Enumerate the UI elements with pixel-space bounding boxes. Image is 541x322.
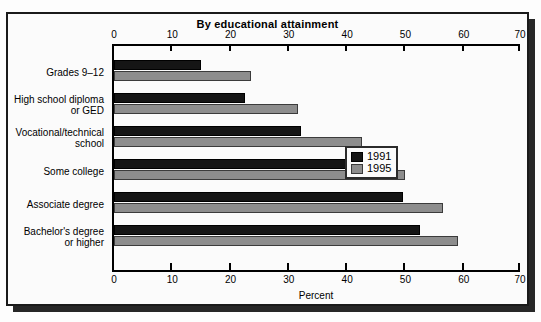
bar-1991-0 <box>114 60 201 70</box>
plot-area: 010203040506070 010203040506070 Grades 9… <box>112 44 520 272</box>
figure-shadow-right <box>529 19 535 312</box>
category-label-line: school <box>0 138 104 149</box>
x-tick-top <box>462 44 464 51</box>
bar-1991-4 <box>114 192 403 202</box>
x-tick-bottom <box>345 263 347 270</box>
bar-1995-4 <box>114 203 443 213</box>
bar-1991-5 <box>114 225 420 235</box>
legend-item-1991: 1991 <box>351 151 391 162</box>
category-label-line: or GED <box>0 105 104 116</box>
x-tick-label-bottom: 30 <box>274 274 304 285</box>
bar-1991-1 <box>114 93 245 103</box>
x-tick-bottom <box>112 263 114 270</box>
x-tick-label-top: 20 <box>216 29 246 40</box>
x-tick-label-bottom: 20 <box>216 274 246 285</box>
category-label-line: Associate degree <box>0 199 104 210</box>
legend-label-1995: 1995 <box>367 163 391 174</box>
x-tick-top <box>229 44 231 51</box>
legend-swatch-1995-icon <box>351 164 363 174</box>
x-tick-top <box>287 44 289 51</box>
bar-1995-2 <box>114 137 362 147</box>
category-label-line: Vocational/technical <box>0 127 104 138</box>
x-tick-bottom <box>462 263 464 270</box>
x-tick-top <box>518 44 520 51</box>
x-tick-label-top: 70 <box>505 29 535 40</box>
x-tick-label-bottom: 40 <box>332 274 362 285</box>
figure-shadow-bottom <box>13 306 535 312</box>
category-label-line: High school diploma <box>0 94 104 105</box>
category-label-line: Grades 9–12 <box>0 67 104 78</box>
chart-legend: 1991 1995 <box>345 146 398 179</box>
x-tick-bottom <box>518 263 520 270</box>
legend-swatch-1991-icon <box>351 152 363 162</box>
bar-1991-3 <box>114 159 350 169</box>
x-tick-label-top: 50 <box>390 29 420 40</box>
category-label-line: Bachelor's degree <box>0 226 104 237</box>
axis-bottom-line <box>112 270 520 272</box>
bar-1995-5 <box>114 236 458 246</box>
x-tick-label-top: 60 <box>449 29 479 40</box>
category-label-4: Associate degree <box>0 199 112 210</box>
x-tick-top <box>112 44 114 51</box>
category-label-0: Grades 9–12 <box>0 67 112 78</box>
x-tick-label-top: 0 <box>99 29 129 40</box>
x-tick-label-bottom: 70 <box>505 274 535 285</box>
category-label-line: Some college <box>0 166 104 177</box>
category-label-5: Bachelor's degreeor higher <box>0 226 112 248</box>
legend-label-1991: 1991 <box>367 151 391 162</box>
x-tick-label-bottom: 10 <box>157 274 187 285</box>
x-tick-label-top: 30 <box>274 29 304 40</box>
bar-1995-1 <box>114 104 298 114</box>
x-tick-label-bottom: 0 <box>99 274 129 285</box>
x-tick-label-top: 40 <box>332 29 362 40</box>
category-label-line: or higher <box>0 237 104 248</box>
x-tick-bottom <box>403 263 405 270</box>
bar-1995-0 <box>114 71 251 81</box>
legend-item-1995: 1995 <box>351 163 391 174</box>
x-axis-caption: Percent <box>112 290 520 301</box>
x-tick-bottom <box>287 263 289 270</box>
category-label-3: Some college <box>0 166 112 177</box>
x-tick-top <box>345 44 347 51</box>
chart-frame: By educational attainment 01020304050607… <box>6 12 529 306</box>
x-tick-top <box>403 44 405 51</box>
x-tick-label-bottom: 50 <box>390 274 420 285</box>
axis-top-line <box>112 44 520 46</box>
x-tick-bottom <box>229 263 231 270</box>
x-tick-bottom <box>170 263 172 270</box>
x-tick-label-bottom: 60 <box>449 274 479 285</box>
category-label-2: Vocational/technicalschool <box>0 127 112 149</box>
chart-figure: By educational attainment 01020304050607… <box>0 0 541 322</box>
x-tick-top <box>170 44 172 51</box>
bar-1991-2 <box>114 126 301 136</box>
category-label-1: High school diplomaor GED <box>0 94 112 116</box>
x-tick-label-top: 10 <box>157 29 187 40</box>
